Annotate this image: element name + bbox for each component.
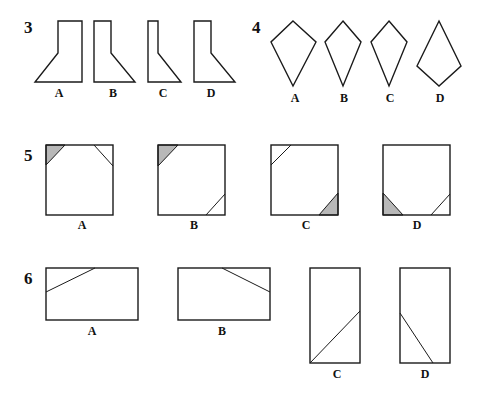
shaded-corner (158, 145, 178, 166)
diagonal-line (400, 313, 433, 363)
rect-6d (400, 268, 450, 363)
option-label: B (340, 91, 348, 105)
shape-4d (417, 21, 461, 86)
option-label: C (302, 218, 311, 232)
option-label: D (207, 86, 216, 100)
shape-3a (35, 21, 82, 82)
option-4b: B (325, 21, 361, 105)
shape-3d (194, 21, 235, 82)
shaded-corner (319, 193, 338, 215)
question-4: 4 A B C D (252, 18, 461, 105)
option-3c: C (148, 21, 181, 100)
option-4c: C (371, 21, 407, 105)
question-6: 6 A B C D (24, 268, 450, 381)
diagonal-line (46, 268, 95, 292)
option-label: D (421, 367, 430, 381)
shape-4a (271, 21, 316, 86)
option-label: A (78, 218, 87, 232)
option-3d: D (194, 21, 235, 100)
shaded-corner (46, 145, 65, 165)
figure-canvas: 3 A B C D 4 A B C (0, 0, 481, 395)
shape-4c (371, 21, 407, 86)
corner-line (431, 194, 450, 215)
option-3a: A (35, 21, 82, 100)
option-label: C (333, 367, 342, 381)
option-6a: A (46, 268, 138, 338)
option-label: B (109, 86, 117, 100)
option-5a: A (46, 145, 113, 232)
corner-line (94, 145, 113, 166)
shaded-corner (383, 193, 403, 215)
option-4a: A (271, 21, 316, 105)
rect-6c (310, 268, 360, 363)
option-4d: D (417, 21, 461, 105)
option-label: D (436, 91, 445, 105)
question-number: 5 (24, 146, 33, 165)
question-number: 4 (252, 18, 261, 37)
option-label: A (291, 91, 300, 105)
rect-6a (46, 268, 138, 320)
corner-line (206, 194, 225, 215)
option-label: C (159, 86, 168, 100)
shape-3b (94, 21, 135, 82)
option-label: B (218, 324, 226, 338)
rect-6b (178, 268, 270, 320)
option-label: C (386, 91, 395, 105)
question-5: 5 A B C D (24, 145, 450, 232)
option-label: A (55, 86, 64, 100)
shape-4b (325, 21, 361, 86)
question-3: 3 A B C D (24, 18, 235, 100)
option-5b: B (158, 145, 225, 232)
option-6d: D (400, 268, 450, 381)
option-6c: C (310, 268, 360, 381)
shape-3c (148, 21, 181, 82)
option-6b: B (178, 268, 270, 338)
option-label: D (413, 218, 422, 232)
option-5c: C (271, 145, 338, 232)
diagonal-line (222, 268, 270, 292)
option-5d: D (383, 145, 450, 232)
question-number: 3 (24, 18, 33, 37)
corner-line (271, 145, 291, 165)
diagonal-line (310, 311, 360, 363)
option-3b: B (94, 21, 135, 100)
option-label: B (190, 218, 198, 232)
option-label: A (88, 324, 97, 338)
question-number: 6 (24, 269, 33, 288)
